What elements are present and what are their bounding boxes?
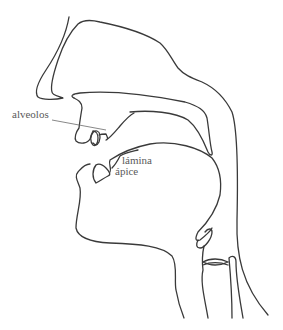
label-apice: ápice	[115, 166, 138, 177]
label-alveolos: alveolos	[12, 109, 49, 120]
nose-outline	[36, 17, 268, 315]
vocal-tract-diagram: alveolos lámina ápice	[0, 0, 283, 330]
larynx	[202, 246, 243, 318]
lower-teeth	[93, 164, 110, 183]
upper-lip-and-alveolar-ridge	[74, 98, 134, 145]
chin-and-neck	[76, 164, 184, 318]
upper-teeth	[91, 131, 98, 146]
